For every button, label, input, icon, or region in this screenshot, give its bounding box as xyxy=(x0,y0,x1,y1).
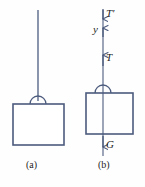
panel-b: T′ y T G (b) xyxy=(72,0,145,187)
physics-figure: (a) xyxy=(0,0,145,187)
panel-a: (a) xyxy=(0,0,72,187)
axis-label-y: y xyxy=(93,24,98,35)
panel-a-caption: (a) xyxy=(26,160,37,170)
force-label-t: T xyxy=(106,52,112,63)
force-label-g: G xyxy=(106,139,114,150)
force-label-t-prime: T′ xyxy=(106,8,115,19)
block-rectangle xyxy=(13,104,64,145)
block-rectangle xyxy=(86,93,133,134)
panel-b-caption: (b) xyxy=(98,160,110,170)
